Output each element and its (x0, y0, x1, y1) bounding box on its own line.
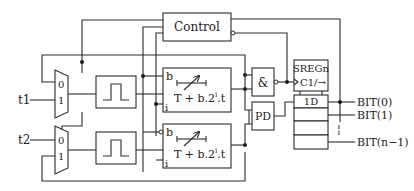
mux1-input-0: 0 (58, 79, 64, 90)
pulse-block-1 (96, 76, 136, 108)
input-t2-label: t2 (18, 133, 30, 147)
sreg-title: SREGn (293, 63, 330, 74)
input-t1-label: t1 (18, 93, 30, 107)
mux-1: 0 1 (55, 70, 68, 118)
delay1-port-i: i (165, 102, 168, 113)
output-bit-n-1: BIT(n−1) (357, 136, 409, 149)
delay1-formula: T + b.2i.t (174, 91, 226, 105)
control-wire-3 (156, 33, 163, 136)
delay-line-tdc-diagram: Control 0 1 t1 b i (0, 0, 414, 191)
delay1-port-b: b (166, 70, 173, 83)
control-label: Control (174, 20, 220, 34)
delay2-port-i: i (165, 158, 168, 169)
output-bit-1: BIT(1) (357, 109, 392, 122)
phase-detector: PD (252, 102, 274, 130)
pulse-block-2 (96, 132, 136, 164)
mux-2: 0 1 (55, 126, 68, 174)
pd-label: PD (255, 110, 271, 123)
delay2-port-b: b (166, 126, 173, 139)
and-gate-label: & (258, 76, 269, 90)
mux2-input-1: 1 (58, 151, 64, 162)
sreg-clock-label: C1/→ (300, 77, 326, 88)
shift-register: SREGn C1/→ 1D (293, 60, 330, 149)
control-block: Control (163, 13, 231, 41)
control-wire-1 (82, 20, 163, 62)
pd-output-wire (274, 102, 294, 116)
mux2-input-0: 0 (58, 135, 64, 146)
output-ellipsis: ¦ (337, 123, 341, 136)
mux1-input-1: 1 (58, 95, 64, 106)
delay-block-1: b i T + b.2i.t (163, 68, 231, 113)
output-bit-0: BIT(0) (357, 96, 392, 109)
and-gate: & (252, 68, 278, 96)
delay-block-2: b i T + b.2i.t (159, 124, 231, 169)
delay2-formula: T + b.2i.t (174, 147, 226, 161)
sreg-data-label: 1D (304, 96, 318, 107)
